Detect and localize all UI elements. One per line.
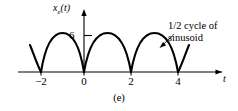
- x-tick-label--2: −2: [33, 76, 49, 87]
- y-axis-label: xe(t): [53, 3, 70, 16]
- waveform-arch-partial-left: [30, 45, 41, 72]
- annotation-half-cycle: 1/2 cycle of sinusoid: [168, 20, 218, 43]
- waveform-arch-partial-right: [178, 45, 189, 72]
- figure-caption: (e): [0, 93, 238, 104]
- y-axis-label-argument: (t): [61, 2, 70, 13]
- y-axis-arrowhead: [81, 9, 86, 16]
- x-tick-label-0: 0: [77, 76, 91, 87]
- waveform-arch-1: [41, 33, 84, 72]
- waveform-arch-2: [84, 33, 131, 72]
- x-tick-label-4: 4: [171, 76, 185, 87]
- x-axis-arrowhead: [216, 69, 223, 74]
- y-tick-label-6: 6: [69, 30, 75, 41]
- annotation-line-2: sinusoid: [168, 32, 218, 44]
- figure-container: xe(t) 6 −2 0 2 4 t 1/2 cycle of sinusoid…: [0, 0, 238, 111]
- x-tick-label-2: 2: [124, 76, 138, 87]
- x-axis-label: t: [223, 74, 226, 84]
- annotation-line-1: 1/2 cycle of: [168, 20, 218, 32]
